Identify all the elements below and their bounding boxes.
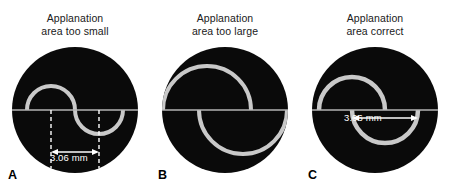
panel-b-mire-diagram	[161, 47, 289, 174]
panel-a-caption: Applanation area too small	[0, 12, 150, 38]
panel-a-caption-line2: area too small	[41, 25, 108, 37]
panel-c-caption: Applanation area correct	[300, 12, 450, 38]
panel-b-caption-line2: area too large	[192, 25, 258, 37]
panel-b-disc	[161, 47, 289, 174]
panel-c-caption-line2: area correct	[346, 25, 403, 37]
panel-b: Applanation area too large B	[150, 0, 300, 186]
panel-a-letter: A	[8, 168, 17, 182]
panel-a-measurement-label: 3.06 mm	[50, 152, 88, 163]
panel-c-disc	[311, 47, 439, 174]
panel-c: Applanation area correct	[300, 0, 450, 186]
panel-b-caption-line1: Applanation	[197, 12, 254, 24]
panel-c-measurement-label: 3.06 mm	[344, 112, 382, 123]
panel-c-letter: C	[308, 168, 317, 182]
panel-b-caption: Applanation area too large	[150, 12, 300, 38]
panel-c-caption-line1: Applanation	[347, 12, 404, 24]
panel-c-mire-diagram	[311, 47, 439, 174]
applanation-figure: Applanation area too small	[0, 0, 452, 186]
panel-b-letter: B	[158, 168, 167, 182]
panel-a-caption-line1: Applanation	[47, 12, 104, 24]
panel-a: Applanation area too small	[0, 0, 150, 186]
